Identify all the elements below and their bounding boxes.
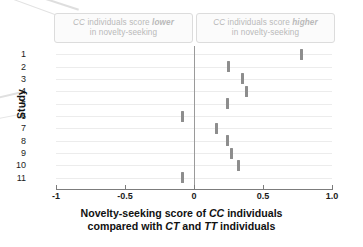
zero-reference-line [194, 46, 195, 186]
annotation-banner-higher-line1: CC individuals score higher [213, 18, 318, 29]
data-marker-study-6 [181, 111, 184, 122]
y-tick-label-study-11: 11 [17, 173, 26, 183]
scan-artifact-streak [0, 0, 60, 17]
x-tick-3 [263, 185, 264, 190]
data-marker-study-2 [227, 61, 230, 72]
data-marker-study-10 [237, 160, 240, 171]
annotation-banner-lower-line2: in novelty-seeking [90, 28, 157, 39]
x-tick-2 [194, 185, 195, 190]
annotation-banner-higher-line2: in novelty-seeking [232, 28, 299, 39]
genotype-cc-label: CC [73, 18, 85, 27]
x-tick-label--0.5: -0.5 [117, 191, 133, 201]
y-axis-title: Study [15, 69, 27, 139]
x-tick-4 [332, 185, 333, 190]
annotation-banner-lower: CC individuals score lower in novelty-se… [54, 13, 193, 43]
y-tick-label-study-9: 9 [21, 148, 26, 158]
scan-artifact-streak [0, 0, 79, 11]
data-marker-study-11 [181, 172, 184, 183]
genotype-cc-label: CC [213, 18, 225, 27]
genotype-tt-label: TT [204, 220, 217, 232]
x-tick-label-0: 0 [191, 191, 196, 201]
x-tick-0 [56, 185, 57, 190]
x-tick-label--1: -1 [52, 191, 60, 201]
data-marker-study-4 [245, 86, 248, 97]
x-tick-1 [125, 185, 126, 190]
x-axis-title: Novelty-seeking score of CC individuals … [0, 207, 363, 233]
genotype-ct-label: CT [165, 220, 179, 232]
data-marker-study-9 [230, 148, 233, 159]
data-marker-study-8 [226, 135, 229, 146]
x-axis-title-line2: compared with CT and TT individuals [0, 220, 363, 233]
x-axis-title-line1: Novelty-seeking score of CC individuals [0, 207, 363, 220]
y-tick-label-study-1: 1 [21, 49, 26, 59]
annotation-banner-higher: CC individuals score higher in novelty-s… [196, 13, 335, 43]
forest-plot-area [56, 48, 332, 184]
x-tick-label-1.0: 1.0 [326, 191, 339, 201]
data-marker-study-5 [226, 98, 229, 109]
genotype-cc-label: CC [209, 207, 224, 219]
annotation-banner-lower-line1: CC individuals score lower [73, 18, 174, 29]
data-marker-study-1 [300, 49, 303, 60]
y-tick-label-study-10: 10 [16, 160, 26, 170]
x-tick-label-0.5: 0.5 [257, 191, 270, 201]
data-marker-study-7 [215, 123, 218, 134]
